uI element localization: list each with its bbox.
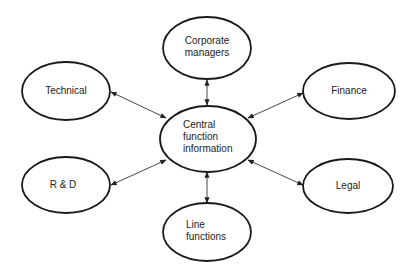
node-central: Centralfunctioninformation	[160, 106, 256, 172]
node-label: function	[183, 131, 218, 142]
node-technical: Technical	[22, 62, 110, 120]
node-label: Technical	[45, 85, 87, 96]
node-label: R & D	[50, 179, 77, 190]
node-label: Central	[183, 119, 215, 130]
node-corporate-managers: Corporatemanagers	[163, 17, 251, 79]
node-label: Line	[186, 219, 205, 230]
node-legal: Legal	[303, 159, 393, 213]
node-label: managers	[185, 47, 229, 58]
diagram-nodes: CentralfunctioninformationCorporatemanag…	[22, 17, 395, 261]
double-arrow-icon	[248, 160, 303, 185]
node-label: Legal	[336, 180, 360, 191]
node-label: Corporate	[185, 35, 230, 46]
node-finance: Finance	[303, 63, 395, 119]
node-label: Finance	[331, 85, 367, 96]
node-r-and-d: R & D	[22, 157, 110, 213]
double-arrow-icon	[111, 92, 166, 118]
node-line-functions: Linefunctions	[163, 203, 251, 261]
double-arrow-icon	[248, 93, 303, 118]
node-label: information	[183, 143, 232, 154]
double-arrow-icon	[111, 160, 166, 185]
diagram-canvas: CentralfunctioninformationCorporatemanag…	[0, 0, 415, 277]
node-label: functions	[186, 231, 226, 242]
